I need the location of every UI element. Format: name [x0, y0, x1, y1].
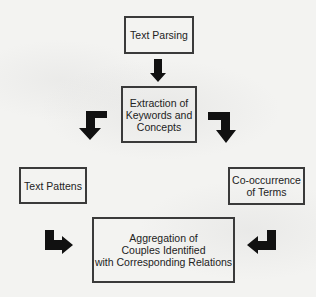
arrow-elbow-right-icon: [45, 230, 73, 254]
arrows-layer: [0, 0, 316, 297]
arrow-elbow-down-left-icon: [79, 111, 107, 140]
arrow-elbow-down-right-icon: [208, 112, 236, 143]
arrow-down-icon: [150, 59, 166, 82]
arrow-elbow-left-icon: [247, 230, 276, 254]
